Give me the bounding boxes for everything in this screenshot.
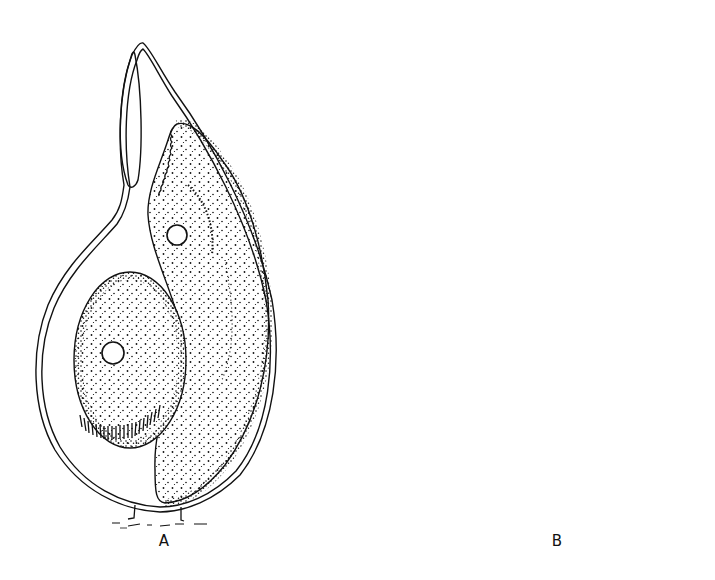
panel-label-a: A — [159, 534, 169, 549]
panel-label-b: B — [552, 534, 562, 549]
nucleus-a-elongated — [167, 225, 187, 245]
illustration-canvas — [0, 0, 715, 580]
cell-round-a — [74, 272, 186, 448]
stalk-a — [112, 505, 207, 528]
nucleus-a-round — [102, 342, 124, 364]
panel-a — [36, 43, 276, 528]
